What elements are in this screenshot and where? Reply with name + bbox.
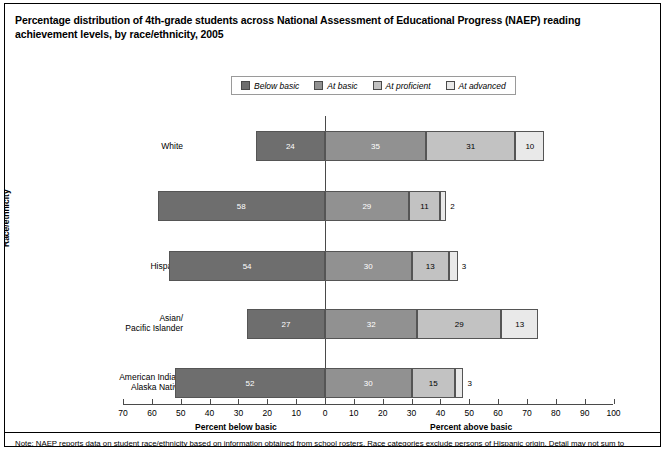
bar-value-label: 15 [429, 379, 438, 388]
note-separator [5, 432, 661, 433]
chart-note: Note: NAEP reports data on student race/… [15, 438, 651, 447]
bar-segment-at-proficient[interactable]: 13 [412, 251, 450, 281]
x-axis-tick-label: 10 [342, 408, 366, 418]
bar-segment-at-basic[interactable]: 29 [325, 191, 409, 221]
bar-value-label: 24 [286, 142, 295, 151]
x-axis-tick [354, 399, 355, 404]
bar-row: 5430133 [5, 251, 661, 281]
x-axis-tick [296, 399, 297, 404]
bar-value-label: 52 [246, 379, 255, 388]
bar-segment-at-proficient[interactable]: 29 [417, 309, 501, 339]
bar-row: 24353110 [5, 131, 661, 161]
axis-sublabel-below-basic: Percent below basic [195, 422, 277, 432]
x-axis-tick [123, 399, 124, 404]
x-axis-tick [527, 399, 528, 404]
x-axis-tick-label: 100 [602, 408, 626, 418]
bar-value-label: 30 [364, 262, 373, 271]
bar-segment-below-basic[interactable]: 52 [175, 368, 325, 398]
bar-row: 5230153 [5, 368, 661, 398]
bar-value-label: 35 [371, 142, 380, 151]
bar-value-label: 29 [362, 202, 371, 211]
bar-segment-below-basic[interactable]: 24 [256, 131, 325, 161]
x-axis-tick [469, 399, 470, 404]
x-axis-tick-label: 70 [515, 408, 539, 418]
bar-value-label: 32 [367, 320, 376, 329]
bar-segment-at-proficient[interactable]: 15 [412, 368, 455, 398]
x-axis-tick [412, 399, 413, 404]
bar-value-label-outside: 2 [446, 191, 454, 221]
x-axis-tick-label: 70 [111, 408, 135, 418]
x-axis-tick [383, 399, 384, 404]
bar-value-label: 31 [466, 142, 475, 151]
x-axis-tick [440, 399, 441, 404]
bar-value-label: 13 [426, 262, 435, 271]
x-axis-tick-label: 50 [457, 408, 481, 418]
x-axis-tick [267, 399, 268, 404]
bar-row: 27322913 [5, 309, 661, 339]
x-axis-tick [556, 399, 557, 404]
bar-segment-at-basic[interactable]: 35 [325, 131, 426, 161]
x-axis-tick [325, 399, 326, 404]
bar-value-label: 58 [237, 202, 246, 211]
x-axis-tick-label: 0 [313, 408, 337, 418]
x-axis-tick-label: 40 [198, 408, 222, 418]
bar-segment-at-advanced[interactable]: 10 [515, 131, 544, 161]
bar-value-label: 13 [515, 320, 524, 329]
axis-sublabel-above-basic: Percent above basic [430, 422, 512, 432]
x-axis-tick-label: 30 [226, 408, 250, 418]
bar-segment-at-advanced[interactable] [449, 251, 458, 281]
bar-value-label-outside: 3 [463, 368, 471, 398]
bar-value-label: 27 [282, 320, 291, 329]
bar-value-label: 10 [525, 142, 534, 151]
bar-segment-below-basic[interactable]: 27 [247, 309, 325, 339]
x-axis-tick [181, 399, 182, 404]
bar-segment-below-basic[interactable]: 58 [158, 191, 325, 221]
bar-segment-at-proficient[interactable]: 31 [426, 131, 515, 161]
bar-value-label: 29 [455, 320, 464, 329]
x-axis-tick-label: 80 [544, 408, 568, 418]
x-axis-tick [238, 399, 239, 404]
plot-area: Race/ethnicity 7060504030201001020304050… [5, 4, 661, 447]
x-axis-tick [614, 399, 615, 404]
bar-segment-at-advanced[interactable]: 13 [501, 309, 539, 339]
x-axis-tick [210, 399, 211, 404]
x-axis-tick-label: 10 [284, 408, 308, 418]
x-axis-tick-label: 20 [371, 408, 395, 418]
bar-segment-at-basic[interactable]: 30 [325, 251, 412, 281]
bar-row: 5829112 [5, 191, 661, 221]
x-axis-tick-label: 90 [573, 408, 597, 418]
x-axis-tick-label: 20 [255, 408, 279, 418]
x-axis-tick [585, 399, 586, 404]
figure-frame: Percentage distribution of 4th-grade stu… [4, 3, 661, 447]
x-axis-tick-label: 60 [486, 408, 510, 418]
x-axis-tick-label: 60 [140, 408, 164, 418]
x-axis-tick [152, 399, 153, 404]
bar-segment-below-basic[interactable]: 54 [169, 251, 325, 281]
x-axis-tick-label: 50 [169, 408, 193, 418]
bar-value-label: 30 [364, 379, 373, 388]
bar-value-label-outside: 3 [458, 251, 466, 281]
bar-value-label: 54 [243, 262, 252, 271]
bar-segment-at-proficient[interactable]: 11 [409, 191, 441, 221]
x-axis-tick-label: 30 [400, 408, 424, 418]
bar-segment-at-advanced[interactable] [440, 191, 446, 221]
bar-segment-at-basic[interactable]: 32 [325, 309, 417, 339]
bar-segment-at-advanced[interactable] [455, 368, 464, 398]
x-axis-tick-label: 40 [428, 408, 452, 418]
bar-value-label: 11 [420, 202, 428, 211]
x-axis-tick [498, 399, 499, 404]
x-axis-line [123, 404, 613, 405]
bar-segment-at-basic[interactable]: 30 [325, 368, 412, 398]
